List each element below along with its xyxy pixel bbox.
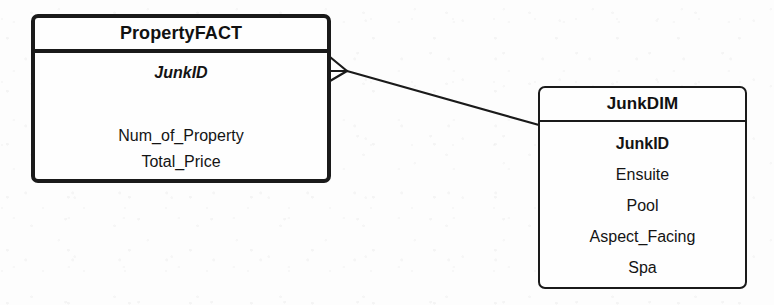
attribute-junk-dim-aspect-facing: Aspect_Facing xyxy=(540,221,745,252)
attribute-junk-dim-pool: Pool xyxy=(540,190,745,221)
relationship-line xyxy=(347,71,539,125)
attribute-junk-dim-spa: Spa xyxy=(540,252,745,283)
relationship-fact-to-dim[interactable] xyxy=(330,57,539,125)
entity-junk-dim-attributes: JunkID Ensuite Pool Aspect_Facing Spa xyxy=(540,122,745,287)
entity-property-fact-attributes: JunkID Num_of_Property Total_Price xyxy=(35,53,327,179)
attribute-junk-dim-junkid: JunkID xyxy=(540,128,745,159)
entity-property-fact[interactable]: PropertyFACT JunkID Num_of_Property Tota… xyxy=(31,14,331,183)
entity-property-fact-title: PropertyFACT xyxy=(35,18,327,53)
attribute-junk-dim-ensuite: Ensuite xyxy=(540,159,745,190)
attribute-property-fact-junkid: JunkID xyxy=(35,60,327,86)
attribute-property-fact-num-of-property: Num_of_Property xyxy=(35,123,327,149)
crow-foot-prong-upper xyxy=(330,57,347,71)
entity-junk-dim[interactable]: JunkDIM JunkID Ensuite Pool Aspect_Facin… xyxy=(538,86,747,289)
er-diagram-canvas: PropertyFACT JunkID Num_of_Property Tota… xyxy=(0,0,774,305)
crow-foot-prong-lower xyxy=(330,71,347,81)
entity-junk-dim-title: JunkDIM xyxy=(540,88,745,122)
attribute-spacer xyxy=(35,86,327,123)
attribute-property-fact-total-price: Total_Price xyxy=(35,149,327,175)
